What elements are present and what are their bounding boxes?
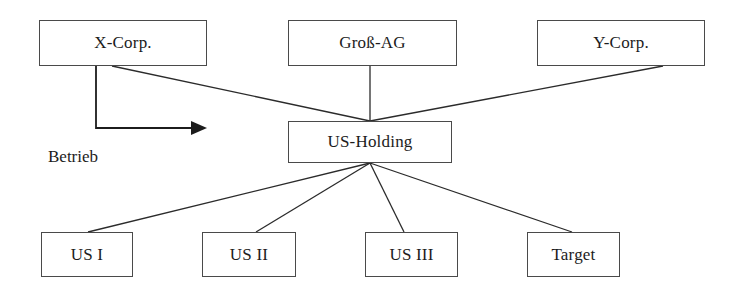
node-target[interactable]: Target — [527, 232, 620, 277]
betrieb-arrow-line — [96, 66, 200, 128]
node-us-ii[interactable]: US II — [202, 232, 296, 277]
edge-us-holding-to-target — [370, 163, 572, 232]
node-x-corp-label: X-Corp. — [94, 33, 152, 53]
betrieb-arrow-label: Betrieb — [48, 147, 98, 167]
node-y-corp-label: Y-Corp. — [593, 33, 649, 53]
edge-us-holding-to-us-ii — [256, 163, 370, 232]
node-us-holding-label: US-Holding — [327, 132, 412, 152]
node-target-label: Target — [551, 245, 595, 265]
node-y-corp[interactable]: Y-Corp. — [537, 20, 705, 66]
node-x-corp[interactable]: X-Corp. — [39, 20, 207, 66]
node-us-i[interactable]: US I — [41, 232, 133, 277]
edge-us-holding-to-us-i — [88, 163, 370, 232]
node-us-i-label: US I — [71, 245, 103, 265]
node-gross-ag[interactable]: Groß-AG — [288, 20, 457, 66]
node-us-holding[interactable]: US-Holding — [288, 121, 452, 163]
node-gross-ag-label: Groß-AG — [339, 33, 406, 53]
edge-y-corp-to-us-holding — [370, 66, 663, 121]
betrieb-arrow-head — [191, 121, 207, 135]
diagram-canvas: X-Corp. Groß-AG Y-Corp. US-Holding US I … — [0, 0, 734, 298]
node-us-ii-label: US II — [230, 245, 268, 265]
node-us-iii-label: US III — [389, 245, 433, 265]
node-us-iii[interactable]: US III — [365, 232, 458, 277]
edge-x-corp-to-us-holding — [112, 66, 370, 121]
